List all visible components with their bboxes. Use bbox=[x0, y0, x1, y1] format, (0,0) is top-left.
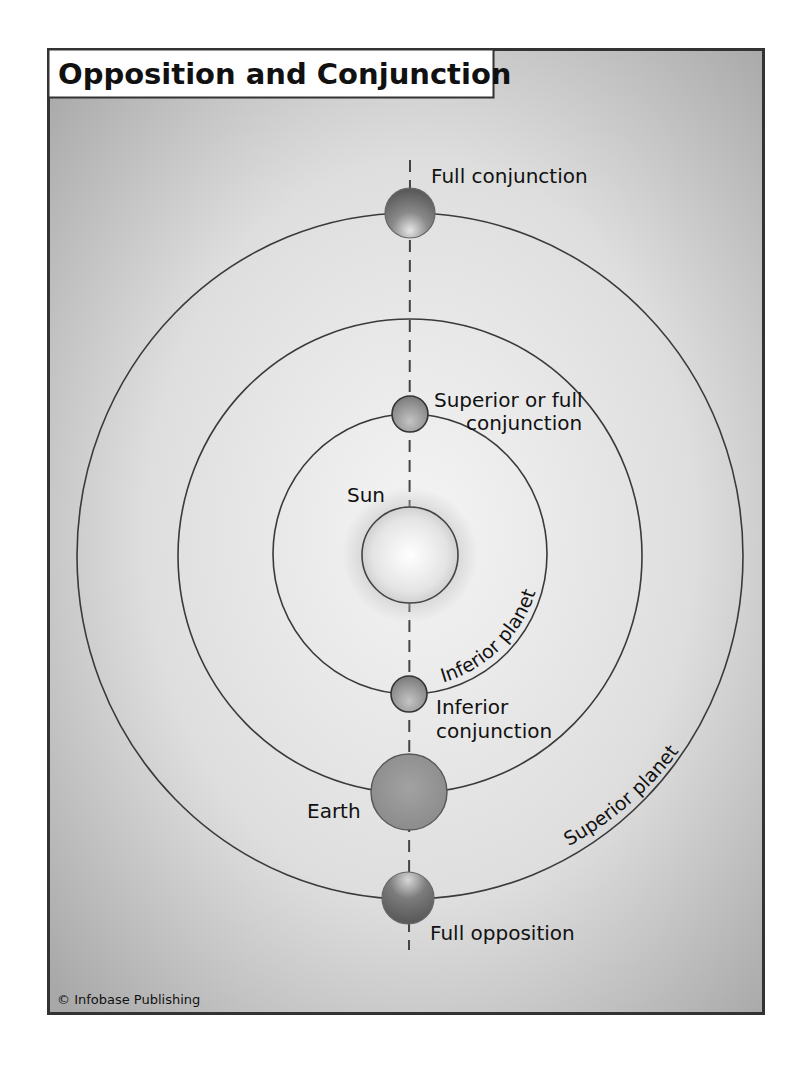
label-earth: Earth bbox=[307, 799, 361, 823]
full-opposition-planet bbox=[382, 872, 434, 924]
inferior-conjunction-planet bbox=[391, 676, 427, 712]
label-inferior-conjunction-1: Inferior bbox=[436, 695, 509, 719]
label-full-opposition: Full opposition bbox=[430, 921, 575, 945]
earth bbox=[371, 754, 447, 830]
credit-text: © Infobase Publishing bbox=[57, 992, 200, 1007]
label-superior-conjunction-2: conjunction bbox=[466, 411, 582, 435]
label-full-conjunction: Full conjunction bbox=[431, 164, 588, 188]
label-superior-conjunction-1: Superior or full bbox=[434, 388, 583, 412]
label-sun: Sun bbox=[347, 483, 385, 507]
label-inferior-conjunction-2: conjunction bbox=[436, 719, 552, 743]
opposition-conjunction-diagram: Opposition and Conjunction Full conjunct… bbox=[0, 0, 806, 1068]
sun bbox=[362, 507, 458, 603]
full-conjunction-planet bbox=[385, 188, 435, 238]
diagram-title: Opposition and Conjunction bbox=[58, 57, 511, 91]
superior-conjunction-planet bbox=[392, 396, 428, 432]
